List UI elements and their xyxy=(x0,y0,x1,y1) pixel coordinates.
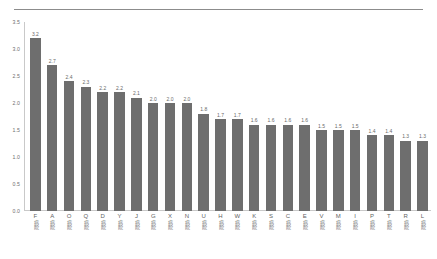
bar-item[interactable]: 1.7 xyxy=(229,22,246,211)
x-tick-label: C病院 xyxy=(279,213,296,230)
bar[interactable] xyxy=(165,103,176,211)
bar-item[interactable]: 2.2 xyxy=(94,22,111,211)
bar[interactable] xyxy=(299,125,310,211)
bar[interactable] xyxy=(316,130,327,211)
bar[interactable] xyxy=(114,92,125,211)
x-tick-label: R病院 xyxy=(397,213,414,230)
x-tick-suffix: 病院 xyxy=(252,220,257,230)
x-tick-label: W病院 xyxy=(229,213,246,230)
bar[interactable] xyxy=(198,114,209,211)
bar-value-label: 1.5 xyxy=(335,123,342,129)
x-tick-suffix: 病院 xyxy=(302,220,307,230)
bar-value-label: 2.0 xyxy=(183,96,190,102)
x-tick-letter: C xyxy=(286,213,290,219)
bar-item[interactable]: 1.4 xyxy=(364,22,381,211)
bar-item[interactable]: 1.6 xyxy=(246,22,263,211)
bar[interactable] xyxy=(81,87,92,211)
y-tick-label: 2.0 xyxy=(12,100,20,106)
y-tick-label: 1.5 xyxy=(12,127,20,133)
bar[interactable] xyxy=(182,103,193,211)
x-tick-label: A病院 xyxy=(44,213,61,230)
x-tick-suffix: 病院 xyxy=(50,220,55,230)
bar-item[interactable]: 2.4 xyxy=(61,22,78,211)
bar-item[interactable]: 1.8 xyxy=(195,22,212,211)
bar[interactable] xyxy=(97,92,108,211)
bar-item[interactable]: 2.1 xyxy=(128,22,145,211)
bar-value-label: 1.4 xyxy=(385,128,392,134)
x-tick-letter: U xyxy=(202,213,206,219)
bar-value-label: 1.3 xyxy=(419,133,426,139)
bar-value-label: 1.6 xyxy=(251,117,258,123)
x-tick-label: G病院 xyxy=(145,213,162,230)
x-tick-letter: O xyxy=(67,213,72,219)
x-tick-label: Q病院 xyxy=(77,213,94,230)
x-tick-letter: A xyxy=(50,213,54,219)
bar[interactable] xyxy=(64,81,75,211)
bar-value-label: 1.7 xyxy=(234,112,241,118)
x-tick-suffix: 病院 xyxy=(369,220,374,230)
y-tick-label: 3.0 xyxy=(12,46,20,52)
bar[interactable] xyxy=(417,141,428,211)
bar[interactable] xyxy=(367,135,378,211)
x-tick-letter: V xyxy=(319,213,323,219)
bar-item[interactable]: 2.2 xyxy=(111,22,128,211)
bar[interactable] xyxy=(47,65,58,211)
bar[interactable] xyxy=(232,119,243,211)
bar[interactable] xyxy=(283,125,294,211)
x-tick-letter: E xyxy=(303,213,307,219)
x-tick-label: X病院 xyxy=(162,213,179,230)
chart-page: 3.53.02.52.01.51.00.50.0 3.22.72.42.32.2… xyxy=(0,0,437,259)
x-axis-labels: F病院A病院O病院Q病院D病院Y病院J病院G病院X病院N病院U病院H病院W病院K… xyxy=(24,213,431,230)
x-tick-letter: H xyxy=(218,213,222,219)
x-tick-letter: K xyxy=(252,213,256,219)
x-tick-label: I病院 xyxy=(347,213,364,230)
x-tick-suffix: 病院 xyxy=(167,220,172,230)
bar-item[interactable]: 2.0 xyxy=(178,22,195,211)
bar[interactable] xyxy=(249,125,260,211)
x-tick-suffix: 病院 xyxy=(353,220,358,230)
bar-item[interactable]: 1.5 xyxy=(330,22,347,211)
bar-item[interactable]: 1.6 xyxy=(263,22,280,211)
y-tick-label: 1.0 xyxy=(12,154,20,160)
x-tick-suffix: 病院 xyxy=(83,220,88,230)
header-divider xyxy=(14,9,423,10)
bar-item[interactable]: 2.7 xyxy=(44,22,61,211)
x-tick-suffix: 病院 xyxy=(218,220,223,230)
x-tick-suffix: 病院 xyxy=(336,220,341,230)
bar-item[interactable]: 1.4 xyxy=(380,22,397,211)
bar[interactable] xyxy=(131,98,142,211)
bar[interactable] xyxy=(384,135,395,211)
bar[interactable] xyxy=(350,130,361,211)
y-tick-label: 0.0 xyxy=(12,208,20,214)
x-tick-label: J病院 xyxy=(128,213,145,230)
bar-value-label: 1.4 xyxy=(368,128,375,134)
x-tick-label: S病院 xyxy=(263,213,280,230)
bar-item[interactable]: 1.6 xyxy=(279,22,296,211)
x-tick-label: P病院 xyxy=(364,213,381,230)
bar-item[interactable]: 1.3 xyxy=(414,22,431,211)
bar-item[interactable]: 1.7 xyxy=(212,22,229,211)
x-tick-letter: Y xyxy=(118,213,122,219)
x-tick-suffix: 病院 xyxy=(134,220,139,230)
bar-item[interactable]: 2.0 xyxy=(145,22,162,211)
bar[interactable] xyxy=(266,125,277,211)
bar-value-label: 1.8 xyxy=(200,106,207,112)
bar[interactable] xyxy=(333,130,344,211)
x-tick-suffix: 病院 xyxy=(386,220,391,230)
y-tick-label: 2.5 xyxy=(12,73,20,79)
bar[interactable] xyxy=(400,141,411,211)
bar-item[interactable]: 2.0 xyxy=(162,22,179,211)
bar-item[interactable]: 1.5 xyxy=(347,22,364,211)
bar-value-label: 1.7 xyxy=(217,112,224,118)
bar-item[interactable]: 2.3 xyxy=(77,22,94,211)
bar-item[interactable]: 1.3 xyxy=(397,22,414,211)
bar-item[interactable]: 1.6 xyxy=(296,22,313,211)
bar[interactable] xyxy=(148,103,159,211)
x-tick-label: N病院 xyxy=(178,213,195,230)
bar[interactable] xyxy=(215,119,226,211)
x-tick-label: L病院 xyxy=(414,213,431,230)
x-tick-suffix: 病院 xyxy=(420,220,425,230)
bar-item[interactable]: 3.2 xyxy=(27,22,44,211)
bar[interactable] xyxy=(30,38,41,211)
bar-item[interactable]: 1.5 xyxy=(313,22,330,211)
